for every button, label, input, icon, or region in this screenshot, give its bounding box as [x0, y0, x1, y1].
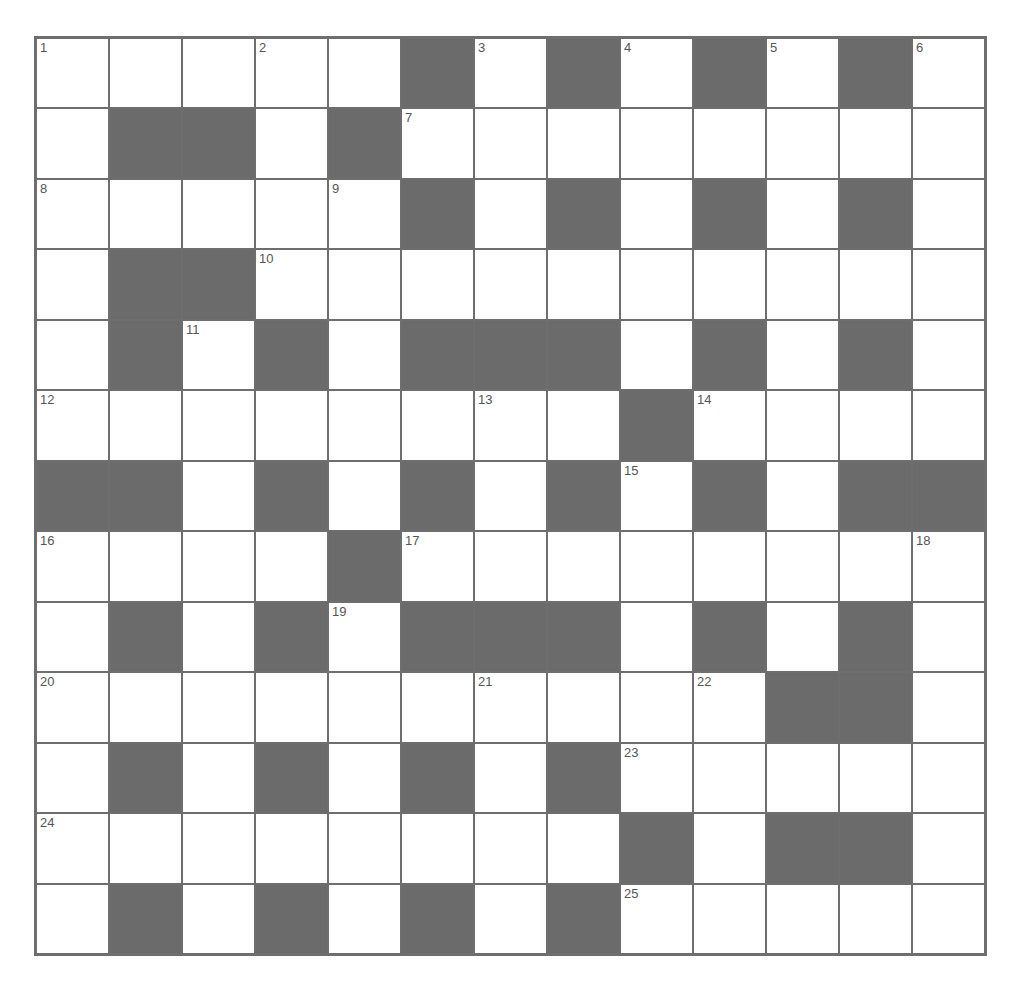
- answer-cell[interactable]: [110, 391, 181, 459]
- answer-cell[interactable]: [840, 391, 911, 459]
- answer-cell[interactable]: [840, 250, 911, 318]
- answer-cell[interactable]: [621, 109, 692, 177]
- answer-cell[interactable]: [37, 250, 108, 318]
- answer-cell[interactable]: [183, 180, 254, 248]
- answer-cell[interactable]: 20: [37, 673, 108, 741]
- answer-cell[interactable]: [694, 814, 765, 882]
- answer-cell[interactable]: [767, 391, 838, 459]
- answer-cell[interactable]: [329, 39, 400, 107]
- answer-cell[interactable]: [329, 885, 400, 953]
- answer-cell[interactable]: 25: [621, 885, 692, 953]
- answer-cell[interactable]: 14: [694, 391, 765, 459]
- answer-cell[interactable]: [329, 250, 400, 318]
- answer-cell[interactable]: [767, 109, 838, 177]
- answer-cell[interactable]: [913, 321, 984, 389]
- answer-cell[interactable]: [767, 180, 838, 248]
- answer-cell[interactable]: [110, 532, 181, 600]
- answer-cell[interactable]: [548, 391, 619, 459]
- answer-cell[interactable]: 9: [329, 180, 400, 248]
- answer-cell[interactable]: [183, 885, 254, 953]
- answer-cell[interactable]: [256, 532, 327, 600]
- answer-cell[interactable]: [548, 250, 619, 318]
- answer-cell[interactable]: [183, 814, 254, 882]
- answer-cell[interactable]: [256, 180, 327, 248]
- answer-cell[interactable]: 23: [621, 744, 692, 812]
- answer-cell[interactable]: [913, 673, 984, 741]
- answer-cell[interactable]: 1: [37, 39, 108, 107]
- answer-cell[interactable]: 2: [256, 39, 327, 107]
- answer-cell[interactable]: 7: [402, 109, 473, 177]
- answer-cell[interactable]: [913, 180, 984, 248]
- answer-cell[interactable]: [621, 673, 692, 741]
- answer-cell[interactable]: 4: [621, 39, 692, 107]
- answer-cell[interactable]: [329, 673, 400, 741]
- answer-cell[interactable]: [256, 391, 327, 459]
- answer-cell[interactable]: [37, 109, 108, 177]
- answer-cell[interactable]: [621, 603, 692, 671]
- answer-cell[interactable]: [694, 250, 765, 318]
- answer-cell[interactable]: [110, 814, 181, 882]
- answer-cell[interactable]: [767, 250, 838, 318]
- answer-cell[interactable]: [913, 391, 984, 459]
- answer-cell[interactable]: [183, 603, 254, 671]
- answer-cell[interactable]: [913, 814, 984, 882]
- answer-cell[interactable]: [767, 532, 838, 600]
- answer-cell[interactable]: 15: [621, 462, 692, 530]
- answer-cell[interactable]: 24: [37, 814, 108, 882]
- answer-cell[interactable]: [475, 109, 546, 177]
- answer-cell[interactable]: [183, 673, 254, 741]
- answer-cell[interactable]: [329, 391, 400, 459]
- answer-cell[interactable]: [183, 39, 254, 107]
- answer-cell[interactable]: [183, 462, 254, 530]
- answer-cell[interactable]: [475, 885, 546, 953]
- answer-cell[interactable]: [694, 532, 765, 600]
- answer-cell[interactable]: 13: [475, 391, 546, 459]
- answer-cell[interactable]: [767, 321, 838, 389]
- answer-cell[interactable]: [183, 532, 254, 600]
- answer-cell[interactable]: 11: [183, 321, 254, 389]
- answer-cell[interactable]: [110, 673, 181, 741]
- answer-cell[interactable]: [329, 321, 400, 389]
- answer-cell[interactable]: 10: [256, 250, 327, 318]
- answer-cell[interactable]: 8: [37, 180, 108, 248]
- answer-cell[interactable]: [475, 180, 546, 248]
- answer-cell[interactable]: 6: [913, 39, 984, 107]
- answer-cell[interactable]: [767, 885, 838, 953]
- answer-cell[interactable]: [256, 673, 327, 741]
- answer-cell[interactable]: [110, 39, 181, 107]
- answer-cell[interactable]: 17: [402, 532, 473, 600]
- answer-cell[interactable]: [913, 885, 984, 953]
- answer-cell[interactable]: [402, 250, 473, 318]
- answer-cell[interactable]: [840, 109, 911, 177]
- answer-cell[interactable]: [913, 744, 984, 812]
- answer-cell[interactable]: [256, 814, 327, 882]
- answer-cell[interactable]: 22: [694, 673, 765, 741]
- answer-cell[interactable]: 12: [37, 391, 108, 459]
- answer-cell[interactable]: [475, 744, 546, 812]
- answer-cell[interactable]: [621, 180, 692, 248]
- answer-cell[interactable]: [621, 250, 692, 318]
- answer-cell[interactable]: [37, 744, 108, 812]
- answer-cell[interactable]: [694, 109, 765, 177]
- answer-cell[interactable]: 19: [329, 603, 400, 671]
- answer-cell[interactable]: [37, 603, 108, 671]
- answer-cell[interactable]: [402, 814, 473, 882]
- answer-cell[interactable]: [767, 462, 838, 530]
- answer-cell[interactable]: [767, 744, 838, 812]
- answer-cell[interactable]: [402, 673, 473, 741]
- answer-cell[interactable]: [694, 744, 765, 812]
- answer-cell[interactable]: 5: [767, 39, 838, 107]
- answer-cell[interactable]: [913, 250, 984, 318]
- answer-cell[interactable]: 18: [913, 532, 984, 600]
- answer-cell[interactable]: [840, 885, 911, 953]
- answer-cell[interactable]: [767, 603, 838, 671]
- answer-cell[interactable]: [840, 744, 911, 812]
- answer-cell[interactable]: [621, 532, 692, 600]
- answer-cell[interactable]: [913, 109, 984, 177]
- answer-cell[interactable]: 16: [37, 532, 108, 600]
- answer-cell[interactable]: 3: [475, 39, 546, 107]
- answer-cell[interactable]: [840, 532, 911, 600]
- answer-cell[interactable]: [475, 532, 546, 600]
- answer-cell[interactable]: [694, 885, 765, 953]
- answer-cell[interactable]: [256, 109, 327, 177]
